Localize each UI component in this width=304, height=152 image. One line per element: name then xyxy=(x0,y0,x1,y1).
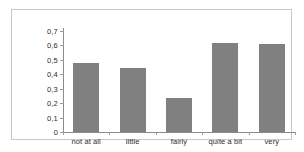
y-tick-mark xyxy=(60,31,64,32)
plot-area: 00,10,20,30,40,50,60,7 not at alllittlef… xyxy=(63,31,295,132)
y-tick-mark xyxy=(60,60,64,61)
x-axis-line xyxy=(63,132,295,133)
bar xyxy=(259,44,285,132)
plot-frame: 00,10,20,30,40,50,60,7 not at alllittlef… xyxy=(11,9,292,140)
x-tick-label: very xyxy=(265,137,280,146)
y-tick-mark xyxy=(60,45,64,46)
x-tick-label: quite a bit xyxy=(209,137,243,146)
y-tick-label: 0,4 xyxy=(47,70,58,79)
x-tick-mark xyxy=(202,132,203,135)
bar-chart-figure: 00,10,20,30,40,50,60,7 not at alllittlef… xyxy=(0,0,304,152)
y-tick-mark xyxy=(60,74,64,75)
x-tick-label: fairly xyxy=(171,137,187,146)
x-tick-mark xyxy=(295,132,296,135)
y-tick-mark xyxy=(60,103,64,104)
x-tick-mark xyxy=(156,132,157,135)
y-tick-label: 0,5 xyxy=(47,55,58,64)
x-tick-mark xyxy=(63,132,64,135)
x-tick-label: not at all xyxy=(72,137,101,146)
x-tick-label: little xyxy=(126,137,140,146)
bar xyxy=(212,43,238,132)
y-tick-label: 0 xyxy=(54,128,58,137)
y-tick-label: 0,6 xyxy=(47,41,58,50)
x-tick-mark xyxy=(249,132,250,135)
y-axis-line xyxy=(63,28,64,132)
y-tick-mark xyxy=(60,118,64,119)
y-tick-label: 0,7 xyxy=(47,27,58,36)
y-tick-label: 0,3 xyxy=(47,84,58,93)
bar xyxy=(166,98,192,132)
bar xyxy=(73,63,99,132)
y-tick-label: 0,2 xyxy=(47,99,58,108)
y-tick-mark xyxy=(60,89,64,90)
bar xyxy=(120,68,146,132)
x-tick-mark xyxy=(109,132,110,135)
y-tick-label: 0,1 xyxy=(47,113,58,122)
